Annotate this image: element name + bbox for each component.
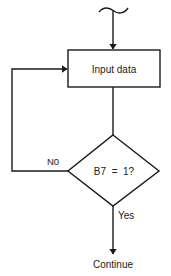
flowchart-diagram: Input data B7 = 1? N0 Yes Continue <box>0 0 171 276</box>
no-loop-line <box>12 69 68 171</box>
decision-label: B7 = 1? <box>94 166 135 177</box>
no-branch-label: N0 <box>47 156 59 167</box>
yes-branch-label: Yes <box>118 210 134 221</box>
input-data-label: Input data <box>92 64 137 75</box>
continue-label: Continue <box>93 259 133 270</box>
